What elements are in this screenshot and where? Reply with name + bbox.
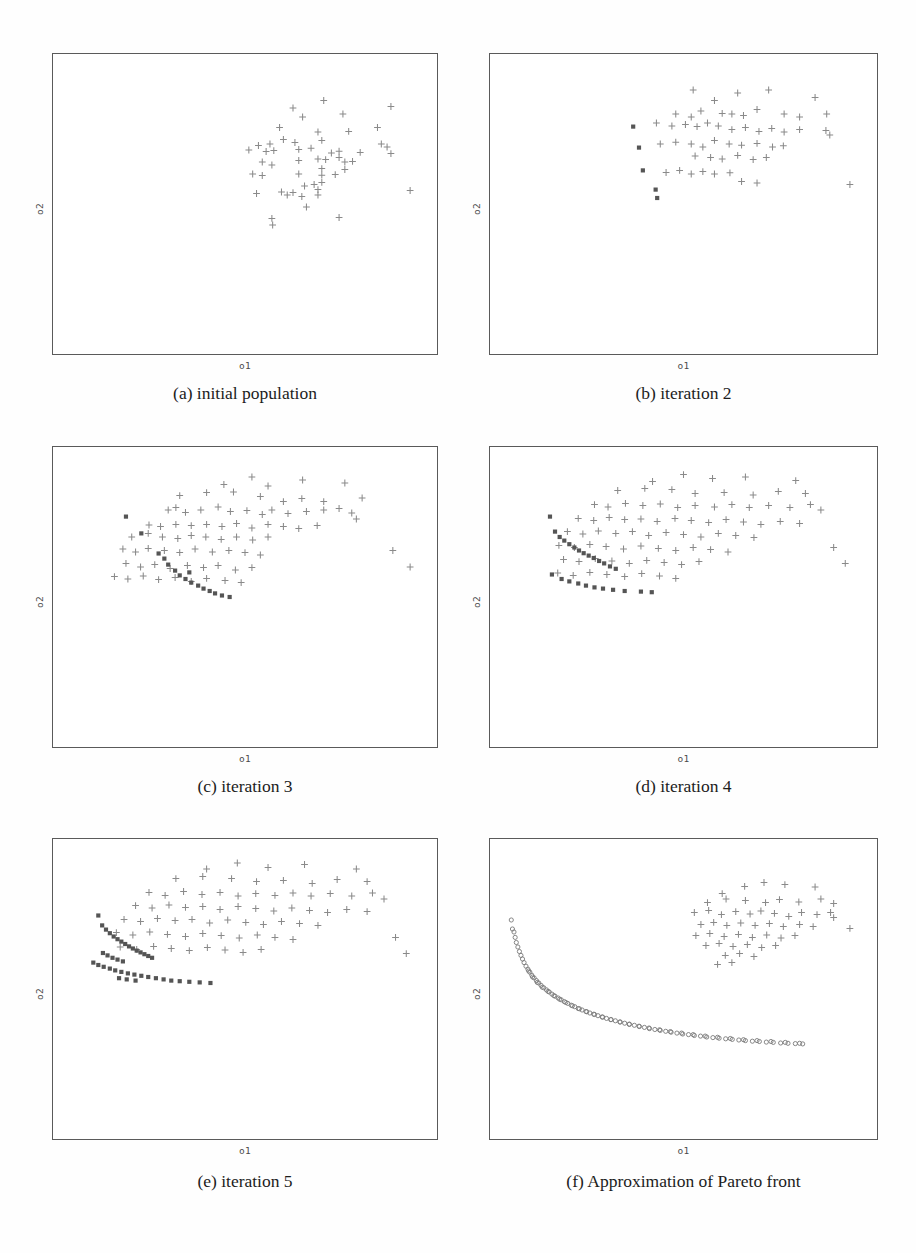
y-axis-label-a: o2 xyxy=(34,203,45,215)
y-axis-label-e: o2 xyxy=(34,988,45,1000)
series-pareto_front xyxy=(124,515,232,600)
series-population xyxy=(691,879,853,968)
series-population xyxy=(554,471,848,582)
plot-frame-f xyxy=(489,838,878,1140)
series-population xyxy=(113,860,410,957)
figure-container: o2 o1 (a) initial population o2 o1 (b) i… xyxy=(0,0,916,1253)
caption-d: (d) iteration 4 xyxy=(489,776,878,797)
y-axis-label-f: o2 xyxy=(471,988,482,1000)
plot-frame-e xyxy=(52,838,438,1140)
scatter-plot-d xyxy=(490,447,877,747)
x-axis-label-b: o1 xyxy=(489,360,878,371)
scatter-plot-e xyxy=(53,839,437,1139)
x-axis-label-a: o1 xyxy=(52,360,438,371)
scatter-plot-a xyxy=(53,54,437,354)
plot-frame-d xyxy=(489,446,878,748)
series-pareto_front xyxy=(91,913,212,985)
caption-f: (f) Approximation of Pareto front xyxy=(489,1171,878,1192)
caption-c: (c) iteration 3 xyxy=(52,776,438,797)
caption-e: (e) iteration 5 xyxy=(52,1171,438,1192)
x-axis-label-c: o1 xyxy=(52,753,438,764)
plot-frame-c xyxy=(52,446,438,748)
x-axis-label-e: o1 xyxy=(52,1145,438,1156)
y-axis-label-b: o2 xyxy=(471,203,482,215)
scatter-plot-b xyxy=(490,54,877,354)
series-population xyxy=(245,97,413,228)
y-axis-label-c: o2 xyxy=(34,596,45,608)
series-pareto_front xyxy=(631,125,659,201)
series-approximated_pareto_front xyxy=(509,918,805,1046)
caption-b: (b) iteration 2 xyxy=(489,383,878,404)
x-axis-label-d: o1 xyxy=(489,753,878,764)
scatter-plot-f xyxy=(490,839,877,1139)
series-population xyxy=(653,87,853,188)
y-axis-label-d: o2 xyxy=(471,596,482,608)
x-axis-label-f: o1 xyxy=(489,1145,878,1156)
plot-frame-a xyxy=(52,53,438,355)
series-pareto_front xyxy=(548,515,654,595)
scatter-plot-c xyxy=(53,447,437,747)
series-population xyxy=(111,474,413,586)
plot-frame-b xyxy=(489,53,878,355)
caption-a: (a) initial population xyxy=(52,383,438,404)
